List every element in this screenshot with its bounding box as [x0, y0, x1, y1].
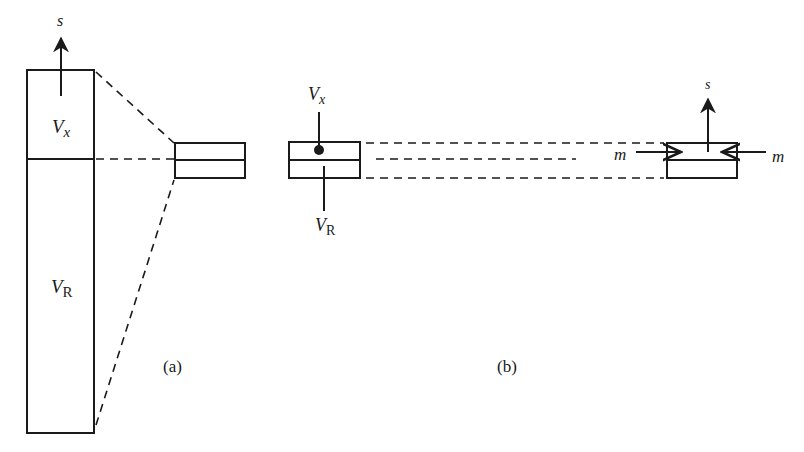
left-block-b: Vx VR: [289, 84, 360, 238]
projection-line-bottom: [96, 180, 174, 425]
projection-line-top: [96, 72, 174, 143]
caption-a: (a): [163, 357, 182, 376]
caption-b: (b): [497, 357, 517, 376]
right-block-b: s m m: [614, 77, 784, 178]
m-label-right: m: [772, 147, 784, 166]
vr-pointer-label: VR: [315, 215, 336, 238]
s-arrow-label-b: s: [705, 77, 711, 92]
panel-b: Vx VR s m m (b): [289, 77, 784, 376]
compressed-block-a: [175, 143, 245, 178]
s-arrow-label: s: [57, 12, 63, 29]
diagram-canvas: s Vx VR (a) Vx VR: [0, 0, 804, 452]
vr-label: VR: [51, 276, 73, 300]
large-volume-block: s Vx VR: [27, 12, 94, 433]
vx-pointer-label: Vx: [308, 84, 326, 107]
m-label-left: m: [614, 145, 626, 164]
vx-label: Vx: [52, 116, 71, 140]
point-dot-icon: [314, 145, 324, 155]
panel-a: s Vx VR (a): [27, 12, 245, 433]
